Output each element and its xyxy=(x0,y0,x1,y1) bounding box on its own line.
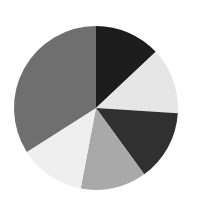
pie-chart xyxy=(0,0,200,197)
pie-slices xyxy=(14,26,178,190)
